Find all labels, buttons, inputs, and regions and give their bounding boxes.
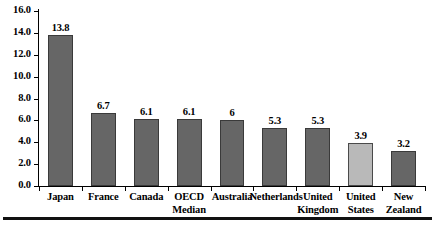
bar	[305, 128, 330, 186]
bar	[220, 120, 245, 186]
bar-slot: 6	[211, 11, 254, 186]
y-axis-tick-mark	[34, 11, 38, 12]
bar-slot: 5.3	[253, 11, 296, 186]
bar-chart: 16.014.012.010.08.06.04.02.00.0 13.86.76…	[0, 0, 441, 234]
y-axis-tick-mark	[34, 55, 38, 56]
bar-value-label: 13.8	[39, 22, 82, 33]
y-axis-tick-label: 12.0	[13, 48, 31, 59]
bar-value-label: 3.9	[339, 130, 382, 141]
bar	[348, 143, 373, 186]
bar-slot: 3.9	[339, 11, 382, 186]
y-axis-tick-mark	[34, 99, 38, 100]
y-axis-tick-mark	[34, 77, 38, 78]
y-axis-tick-label: 6.0	[18, 113, 31, 124]
y-axis-tick-label: 8.0	[18, 92, 31, 103]
bar-slot: 3.2	[382, 11, 425, 186]
bar-value-label: 6	[211, 107, 254, 118]
bar-slot: 6.1	[168, 11, 211, 186]
bar-value-label: 5.3	[253, 115, 296, 126]
bar	[262, 128, 287, 186]
bar	[134, 119, 159, 186]
y-axis-tick-label: 2.0	[18, 157, 31, 168]
bar-slot: 5.3	[296, 11, 339, 186]
y-axis-tick-mark	[34, 33, 38, 34]
bar-slot: 6.7	[82, 11, 125, 186]
bar-group: 13.86.76.16.165.35.33.93.2	[39, 11, 425, 186]
bar	[91, 113, 116, 186]
bar-value-label: 3.2	[382, 138, 425, 149]
bar	[177, 119, 202, 186]
x-axis-category-label: New Zealand	[378, 191, 429, 216]
bar-value-label: 6.7	[82, 100, 125, 111]
y-axis-tick-label: 0.0	[18, 179, 31, 190]
y-axis-tick-label: 10.0	[13, 70, 31, 81]
bar-slot: 13.8	[39, 11, 82, 186]
bar-value-label: 6.1	[168, 106, 211, 117]
y-axis-tick-label: 14.0	[13, 26, 31, 37]
y-axis-tick-label: 4.0	[18, 135, 31, 146]
x-axis-line	[38, 186, 425, 187]
y-axis-tick-mark	[34, 142, 38, 143]
bar-value-label: 5.3	[296, 115, 339, 126]
bar	[48, 35, 73, 186]
y-axis-tick-mark	[34, 186, 38, 187]
bar-value-label: 6.1	[125, 106, 168, 117]
y-axis-tick-mark	[34, 120, 38, 121]
y-axis-tick-label: 16.0	[13, 4, 31, 15]
bar-slot: 6.1	[125, 11, 168, 186]
y-axis-tick-mark	[34, 164, 38, 165]
bottom-divider-rule	[3, 217, 432, 220]
bar	[391, 151, 416, 186]
